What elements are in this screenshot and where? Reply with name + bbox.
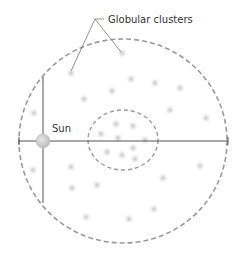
globular-cluster-dot — [92, 180, 102, 190]
globular-cluster-dot — [81, 212, 91, 222]
globular-cluster-dots — [28, 48, 211, 224]
globular-cluster-dot — [158, 173, 168, 183]
globular-cluster-dot — [140, 135, 150, 145]
globular-cluster-dot — [124, 214, 134, 224]
globular-cluster-dot — [102, 147, 112, 157]
globular-cluster-dot — [165, 105, 175, 115]
globular-cluster-dot — [201, 113, 211, 123]
globular-cluster-dot — [128, 143, 138, 153]
sun-label: Sun — [52, 123, 71, 134]
globular-cluster-dot — [79, 94, 89, 104]
globular-clusters-label: Globular clusters — [108, 14, 193, 25]
label-leader-lines — [71, 19, 121, 71]
sun-icon — [36, 134, 50, 148]
globular-cluster-dot — [66, 68, 76, 78]
galaxy-diagram: Sun Globular clusters — [0, 0, 243, 254]
globular-cluster-dot — [149, 204, 159, 214]
globular-cluster-dot — [28, 165, 38, 175]
globular-cluster-dot — [107, 86, 117, 96]
globular-cluster-dot — [130, 154, 140, 164]
globular-cluster-dot — [66, 162, 76, 172]
globular-cluster-dot — [195, 161, 205, 171]
globular-cluster-dot — [67, 183, 77, 193]
globular-cluster-dot — [175, 83, 185, 93]
globular-cluster-dot — [96, 129, 106, 139]
globular-cluster-dot — [117, 150, 127, 160]
globular-cluster-dot — [111, 119, 121, 129]
globular-cluster-dot — [29, 108, 39, 118]
globular-cluster-dot — [126, 74, 136, 84]
globular-cluster-dot — [117, 48, 127, 58]
globular-cluster-dot — [150, 78, 160, 88]
globular-cluster-dot — [128, 121, 138, 131]
